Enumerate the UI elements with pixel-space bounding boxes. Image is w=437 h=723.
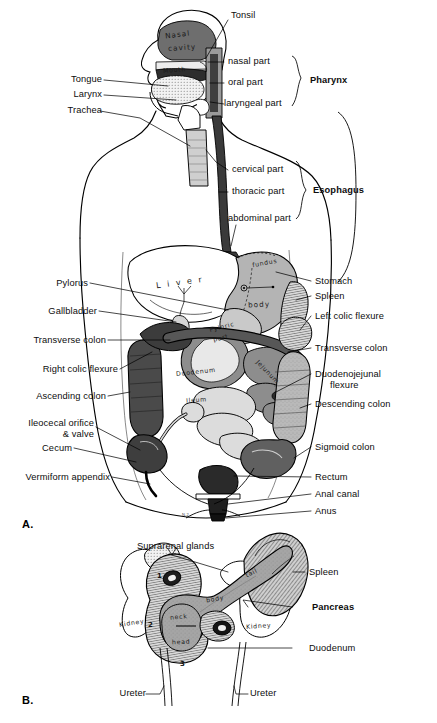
label-oral-part: oral part [228, 77, 263, 88]
label-ureter-left: Ureter [96, 688, 146, 699]
label-nasal-part: nasal part [228, 56, 270, 67]
infigure-artist-signature: N.2. [182, 512, 190, 517]
label-pylorus: Pylorus [4, 278, 88, 289]
label-spleen: Spleen [315, 291, 345, 302]
label-left-colic-flexure: Left colic flexure [315, 311, 384, 322]
label-duodenojejunal-flexure-line2: flexure [330, 380, 359, 391]
label-vermiform-appendix: Vermiform appendix [4, 472, 110, 483]
panel-letter-b: B. [22, 694, 34, 706]
label-sigmoid-colon: Sigmoid colon [315, 442, 375, 453]
label-spleen-panelB: Spleen [309, 567, 339, 578]
duodenum-part-1-marker: 1 [157, 572, 162, 580]
label-tonsil: Tonsil [231, 10, 255, 21]
label-ileocecal-orifice: Ileocecal orifice [4, 418, 94, 429]
label-ascending-colon: Ascending colon [4, 391, 106, 402]
label-rectum: Rectum [315, 472, 348, 483]
bracket-label-esophagus: Esophagus [313, 185, 364, 196]
abdominal-viscera [127, 246, 312, 521]
label-tongue: Tongue [26, 74, 102, 85]
label-pancreas: Pancreas [312, 602, 354, 613]
label-ureter-right: Ureter [250, 688, 276, 699]
label-anal-canal: Anal canal [315, 489, 359, 500]
duodenum-part-2-marker: 2 [148, 621, 153, 629]
label-suprarenal-glands: Suprarenal glands [137, 541, 214, 552]
label-larynx: Larynx [26, 89, 102, 100]
anatomy-plate: Tongue Larynx Trachea Tonsil nasal part … [0, 0, 437, 723]
label-ileocecal-valve: & valve [4, 429, 94, 440]
brackets [292, 56, 356, 282]
label-anus: Anus [315, 506, 337, 517]
label-right-colic-flexure: Right colic flexure [4, 364, 118, 375]
head-sagittal-section [141, 10, 226, 186]
label-stomach: Stomach [315, 276, 352, 287]
label-transverse-colon-right: Transverse colon [315, 343, 388, 354]
label-thoracic-part: thoracic part [232, 186, 284, 197]
panel-letter-a: A. [22, 518, 34, 530]
label-abdominal-part: abdominal part [228, 213, 291, 224]
label-transverse-colon: Transverse colon [4, 335, 106, 346]
panelB-artwork [121, 533, 309, 706]
bracket-label-pharynx: Pharynx [310, 75, 347, 86]
label-trachea: Trachea [20, 105, 102, 116]
label-gallbladder: Gallbladder [4, 306, 97, 317]
label-laryngeal-part: laryngeal part [224, 98, 282, 109]
label-duodenojejunal-flexure: Duodenojejunal [315, 369, 381, 380]
label-descending-colon: Descending colon [315, 399, 391, 410]
duodenum-part-3-marker: 3 [180, 660, 185, 668]
label-cervical-part: cervical part [232, 164, 283, 175]
label-duodenum-panelB: Duodenum [309, 643, 355, 654]
label-cecum: Cecum [4, 443, 72, 454]
